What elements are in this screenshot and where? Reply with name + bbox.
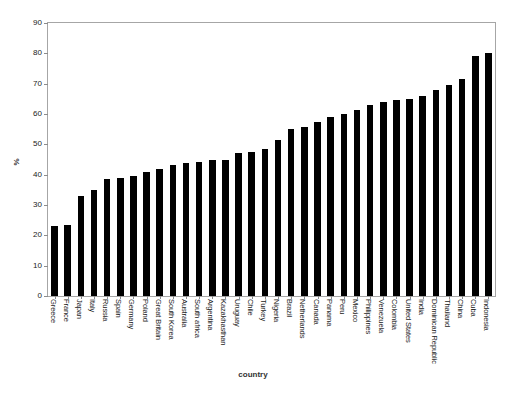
x-axis-category-label: Philippines (364, 299, 372, 334)
x-axis-category-label: United States (404, 299, 412, 343)
bar (472, 56, 479, 296)
plot-area: 0102030405060708090 (47, 22, 496, 297)
y-axis-tick-label: 20 (2, 229, 42, 240)
bar (446, 85, 453, 296)
y-axis-tick-label: 30 (2, 199, 42, 210)
bar (64, 225, 71, 296)
x-axis-category-label: India (417, 299, 425, 315)
x-axis-category-label: Venezuela (377, 299, 385, 333)
x-axis-category-label: China (456, 299, 464, 318)
x-axis-category-label: Mexico (351, 299, 359, 322)
x-axis-category-label: Kazakhasthan (219, 299, 227, 345)
bar (235, 153, 242, 296)
y-axis-tick-mark (44, 266, 48, 267)
bar (419, 96, 426, 296)
x-axis-category-label: Uruguay (233, 299, 241, 327)
bar (406, 99, 413, 296)
y-axis-tick-mark (44, 235, 48, 236)
x-axis-category-label: South Korea (167, 299, 175, 340)
x-axis-category-label: Cuba (469, 299, 477, 317)
bar (354, 110, 361, 296)
x-axis-category-label: Brazil (285, 299, 293, 317)
x-axis-category-label: South africa (193, 299, 201, 338)
y-axis-tick-mark (44, 175, 48, 176)
bar (104, 179, 111, 296)
bar (209, 160, 216, 296)
bar (262, 149, 269, 296)
chart-title (0, 0, 506, 2)
x-axis-category-label: Spain (114, 299, 122, 318)
bar (183, 163, 190, 296)
x-axis-category-label: Panama (325, 299, 333, 326)
bar (275, 140, 282, 296)
x-axis-category-labels: GreeceFranceJapanItalyRussiaSpainGermany… (47, 299, 496, 369)
bar (196, 162, 203, 296)
x-axis-category-label: Canada (312, 299, 320, 325)
y-axis-tick-mark (44, 114, 48, 115)
bar (393, 100, 400, 296)
x-axis-category-label: Germany (127, 299, 135, 329)
bar (170, 165, 177, 296)
bar (459, 79, 466, 296)
bar (156, 169, 163, 296)
x-axis-category-label: Netherlands (298, 299, 306, 338)
x-axis-category-label: Russia (101, 299, 109, 321)
x-axis-category-label: France (62, 299, 70, 322)
y-axis-tick-label: 60 (2, 108, 42, 119)
x-axis-category-label: Poland (141, 299, 149, 322)
x-axis-category-label: Greece (49, 299, 57, 323)
y-axis-tick-mark (44, 84, 48, 85)
bar (301, 127, 308, 296)
y-axis-tick-mark (44, 23, 48, 24)
bar (78, 196, 85, 296)
x-axis-category-label: Peru (338, 299, 346, 314)
x-axis-category-label: Italy (88, 299, 96, 312)
bar (130, 176, 137, 296)
x-axis-category-label: Colombia (390, 299, 398, 330)
bar (433, 90, 440, 296)
y-axis-tick-label: 80 (2, 47, 42, 58)
y-axis-tick-label: 40 (2, 169, 42, 180)
bar (143, 172, 150, 296)
bar (51, 226, 58, 296)
bar (485, 53, 492, 296)
x-axis-category-label: Indonesia (482, 299, 490, 331)
x-axis-category-label: Argentina (206, 299, 214, 330)
plot-inner: 0102030405060708090 (48, 23, 495, 296)
y-axis-tick-mark (44, 205, 48, 206)
y-axis-tick-label: 0 (2, 290, 42, 301)
x-axis-title: country (0, 370, 506, 379)
bar (91, 190, 98, 296)
bar (288, 129, 295, 296)
bar (314, 122, 321, 296)
bar (380, 102, 387, 296)
y-axis-tick-mark (44, 144, 48, 145)
x-axis-category-label: Thailand (443, 299, 451, 327)
x-axis-category-label: Australia (180, 299, 188, 327)
bar (327, 117, 334, 296)
x-axis-category-label: Nigeria (272, 299, 280, 322)
y-axis-tick-label: 50 (2, 138, 42, 149)
bar (248, 152, 255, 296)
bar (367, 105, 374, 296)
y-axis-tick-label: 90 (2, 17, 42, 28)
y-axis-tick-mark (44, 296, 48, 297)
bar (117, 178, 124, 296)
x-axis-category-label: Chile (246, 299, 254, 316)
x-axis-category-label: Great Britain (154, 299, 162, 340)
x-axis-category-label: Japan (75, 299, 83, 319)
x-axis-category-label: Dominican Republic (430, 299, 438, 364)
bar (222, 160, 229, 297)
bar-chart-figure: % 0102030405060708090 GreeceFranceJapanI… (0, 0, 506, 399)
y-axis-tick-mark (44, 53, 48, 54)
x-axis-category-label: Turkey (259, 299, 267, 321)
bar (341, 114, 348, 296)
y-axis-tick-label: 10 (2, 260, 42, 271)
y-axis-tick-label: 70 (2, 78, 42, 89)
